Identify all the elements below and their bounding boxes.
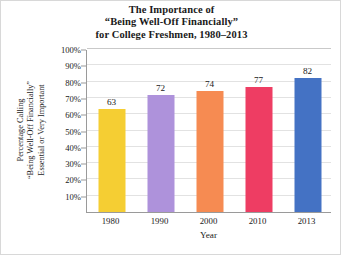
x-axis-title: Year <box>86 230 331 240</box>
bar <box>245 87 272 213</box>
y-axis-tick-label: 100% <box>61 45 81 55</box>
x-axis-tick-label: 2013 <box>282 216 331 226</box>
bar <box>147 95 174 212</box>
x-axis-tick-label: 1990 <box>135 216 184 226</box>
bar-value-label: 74 <box>205 79 214 89</box>
y-axis-tick-label: 20% <box>65 175 81 185</box>
y-axis-tick-label: 40% <box>65 143 81 153</box>
chart-title-line-3: for College Freshmen, 1980–2013 <box>1 29 341 41</box>
x-axis-tick-label: 2010 <box>233 216 282 226</box>
y-axis-title: Percentage Calling “Being Well-Off Finan… <box>15 45 49 215</box>
y-axis-title-text: Percentage Calling “Being Well-Off Finan… <box>16 45 47 215</box>
y-axis-tick-label: 60% <box>65 110 81 120</box>
y-axis-tick-label: 90% <box>65 61 81 71</box>
y-axis-title-line-3: Essential or Very Important <box>37 45 47 215</box>
y-axis-title-line-2: “Being Well-Off Financially” <box>27 45 37 215</box>
gridline-top <box>87 48 331 49</box>
chart-title-line-2: “Being Well-Off Financially” <box>1 16 341 28</box>
x-axis-tick-label: 1980 <box>86 216 135 226</box>
bar-value-label: 82 <box>303 66 312 76</box>
y-axis-tick-label: 10% <box>65 192 81 202</box>
bar-group: 72 <box>136 50 185 212</box>
bar-group: 74 <box>185 50 234 212</box>
chart-title-line-1: The Importance of <box>1 4 341 16</box>
bar <box>196 91 223 212</box>
chart-title: The Importance of “Being Well-Off Financ… <box>1 4 341 41</box>
bar <box>98 109 125 212</box>
y-axis-tick-label: 70% <box>65 94 81 104</box>
x-axis-tick-label: 2000 <box>184 216 233 226</box>
bar-group: 63 <box>87 50 136 212</box>
y-axis-tick-label: 80% <box>65 78 81 88</box>
y-axis-tick-label: 30% <box>65 159 81 169</box>
bar-value-label: 63 <box>107 97 116 107</box>
chart-figure: The Importance of “Being Well-Off Financ… <box>0 0 341 255</box>
bar-group: 77 <box>234 50 283 212</box>
bar <box>294 78 321 212</box>
plot-area: 6372747782 <box>86 50 331 213</box>
y-axis-title-line-1: Percentage Calling <box>16 45 26 215</box>
bar-value-label: 77 <box>254 75 263 85</box>
bar-group: 82 <box>283 50 332 212</box>
y-axis-tick-label: 50% <box>65 127 81 137</box>
bar-value-label: 72 <box>156 83 165 93</box>
